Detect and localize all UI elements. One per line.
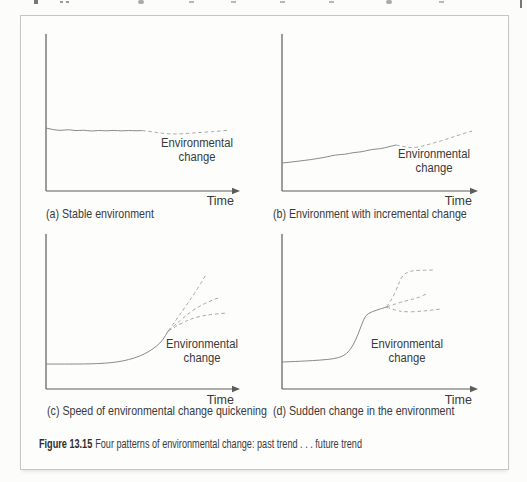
annotation-environmental-change: Environmental change — [391, 147, 477, 175]
chart-c-canvas — [39, 229, 249, 399]
panel-caption-c: (c) Speed of environmental change quicke… — [47, 403, 267, 418]
cropped-text-artifact — [66, 1, 69, 3]
panel-d-sudden-change: Environmental change Time (d) Sudden cha… — [275, 229, 485, 429]
annotation-environmental-change: Environmental change — [159, 337, 245, 365]
cropped-text-artifact — [329, 1, 334, 3]
cropped-text-artifact — [439, 1, 444, 3]
chart-d-canvas — [275, 229, 485, 399]
panel-c-change-quickening: Environmental change Time (c) Speed of e… — [39, 229, 249, 429]
scanned-page: { "colors": { "axis": "#5c5c5c", "past_l… — [0, 0, 527, 482]
panel-b-incremental-change: Environmental change Time (b) Environmen… — [275, 29, 485, 229]
figure-caption-text: Four patterns of environmental change: p… — [95, 437, 362, 451]
figure-box: Environmental change Time (a) Stable env… — [20, 15, 509, 470]
cropped-text-artifact — [189, 1, 194, 3]
panel-caption-b: (b) Environment with incremental change — [273, 206, 467, 221]
annotation-environmental-change: Environmental change — [364, 337, 450, 365]
panel-caption-a: (a) Stable environment — [46, 206, 154, 221]
panel-a-stable-environment: Environmental change Time (a) Stable env… — [39, 29, 249, 229]
annotation-environmental-change: Environmental change — [154, 136, 240, 164]
cropped-text-artifact — [386, 0, 392, 4]
cropped-text-artifact — [34, 0, 38, 4]
cropped-text-artifact — [520, 0, 522, 8]
cropped-text-artifact — [60, 1, 63, 3]
chart-b-canvas — [275, 29, 485, 201]
panel-caption-d: (d) Sudden change in the environment — [273, 403, 454, 418]
chart-a-canvas — [39, 29, 249, 201]
cropped-text-artifact — [280, 1, 285, 3]
cropped-text-artifact — [138, 0, 144, 4]
x-axis-label-time: Time — [182, 194, 234, 208]
figure-number: Figure 13.15 — [39, 437, 92, 451]
figure-caption: Figure 13.15Four patterns of environment… — [39, 437, 362, 451]
cropped-text-artifact — [231, 1, 236, 3]
